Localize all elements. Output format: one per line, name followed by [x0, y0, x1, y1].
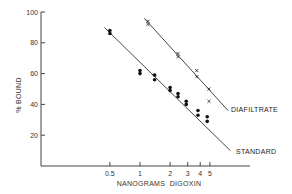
dot-marker-icon [138, 72, 142, 76]
dot-marker-icon [205, 115, 209, 119]
dot-marker-icon [108, 32, 112, 36]
fit-line-standard [104, 27, 230, 150]
dot-marker-icon [138, 69, 142, 73]
dot-marker-icon [168, 89, 172, 93]
fit-lines [104, 18, 230, 150]
x-ticks: 0.512345 [105, 162, 212, 177]
x-tick-label: 5 [208, 170, 212, 177]
dot-marker-icon [153, 73, 157, 77]
dot-marker-icon [108, 29, 112, 33]
chart-canvas: 20406080100 0.512345 % BOUND NANOGRAMS D… [0, 0, 292, 194]
x-tick-label: 4 [198, 170, 202, 177]
x-tick-label: 1 [138, 170, 142, 177]
x-marker-icon [207, 100, 210, 103]
dot-marker-icon [196, 109, 200, 113]
dot-marker-icon [176, 92, 180, 96]
x-marker-icon [146, 23, 149, 26]
fit-line-diafiltrate [144, 18, 228, 110]
y-tick-label: 20 [30, 132, 38, 139]
y-axis-title: % BOUND [15, 77, 22, 113]
dot-marker-icon [184, 103, 188, 107]
x-tick-label: 0.5 [105, 170, 115, 177]
dot-marker-icon [196, 113, 200, 117]
y-tick-label: 40 [30, 101, 38, 108]
y-tick-label: 80 [30, 39, 38, 46]
series-label-diafiltrate: DIAFILTRATE [231, 106, 278, 113]
x-axis-title: NANOGRAMS DIGOXIN [117, 180, 202, 187]
y-ticks: 20406080100 [26, 9, 45, 139]
series-label-standard: STANDARD [236, 148, 276, 155]
dot-marker-icon [168, 86, 172, 90]
dot-marker-icon [153, 78, 157, 82]
x-tick-label: 2 [168, 170, 172, 177]
x-marker-icon [195, 69, 198, 72]
x-tick-label: 3 [186, 170, 190, 177]
dot-marker-icon [184, 100, 188, 104]
y-tick-label: 60 [30, 70, 38, 77]
dot-marker-icon [176, 95, 180, 99]
y-tick-label: 100 [26, 9, 38, 16]
axes [41, 12, 250, 166]
dot-marker-icon [205, 120, 209, 124]
